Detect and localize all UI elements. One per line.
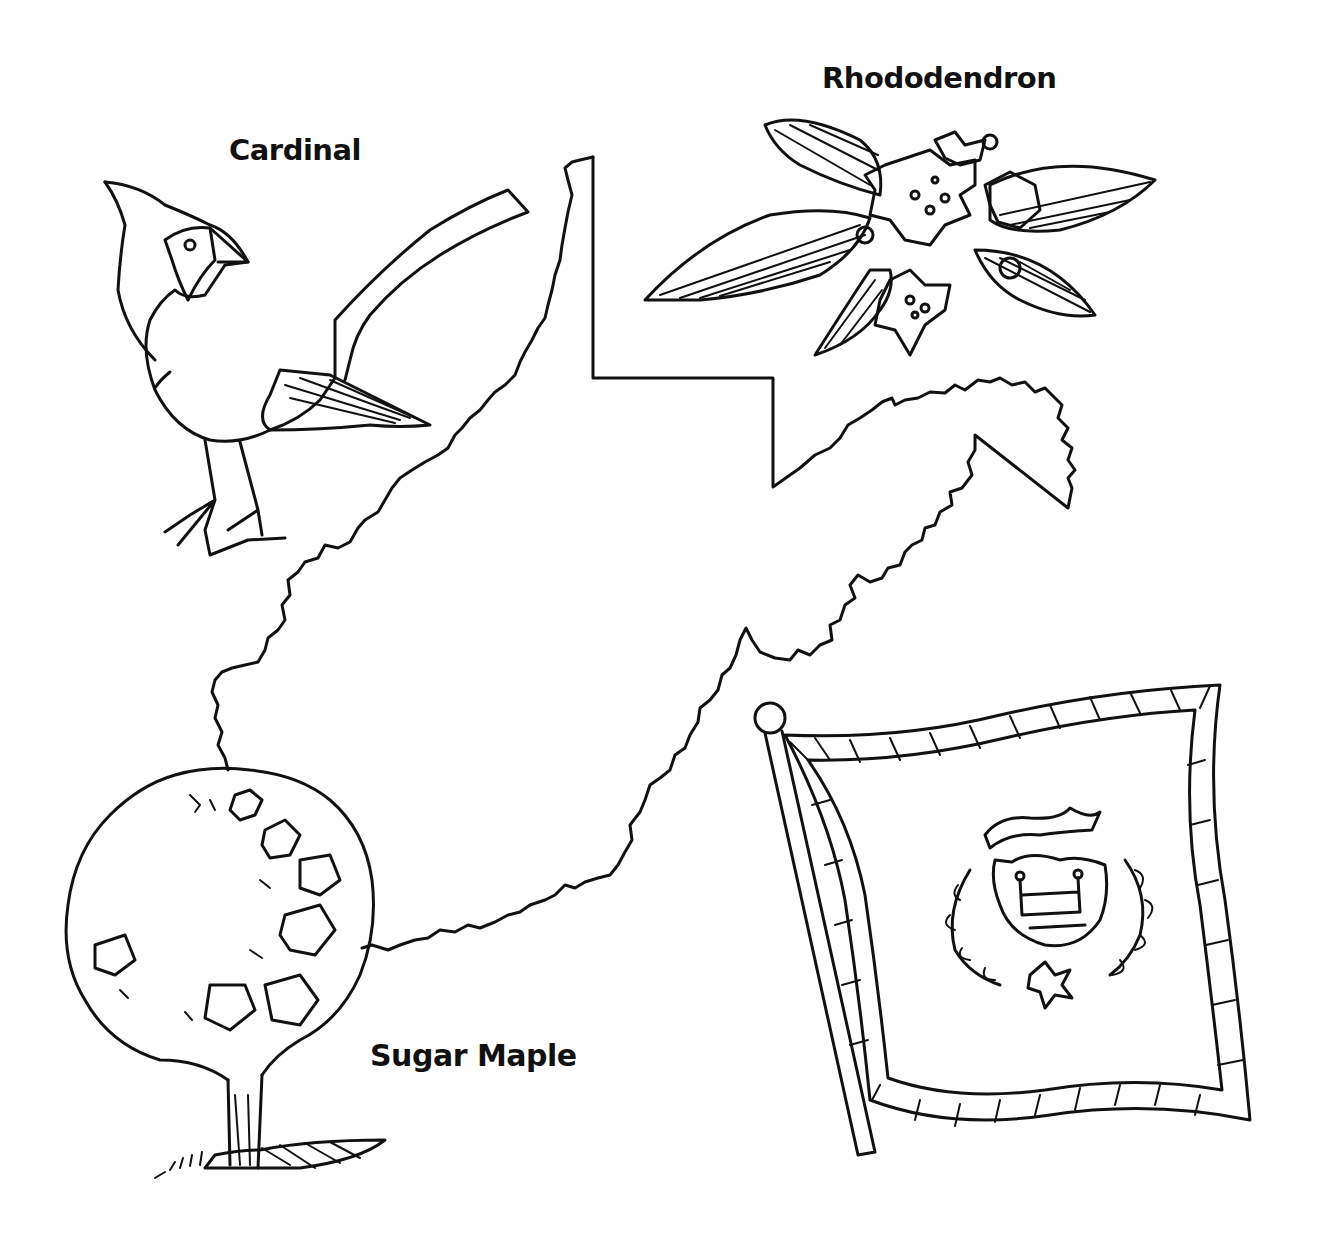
cardinal-label: Cardinal bbox=[229, 133, 361, 167]
sugar-maple-label: Sugar Maple bbox=[370, 1038, 577, 1073]
state-map-outline bbox=[212, 157, 1075, 950]
rhododendron-label: Rhododendron bbox=[822, 61, 1056, 95]
cardinal-illustration bbox=[105, 182, 528, 555]
sugar-maple-illustration bbox=[66, 768, 385, 1178]
coloring-page-art bbox=[0, 0, 1321, 1256]
state-flag-illustration bbox=[755, 685, 1250, 1155]
rhododendron-illustration bbox=[645, 120, 1155, 355]
